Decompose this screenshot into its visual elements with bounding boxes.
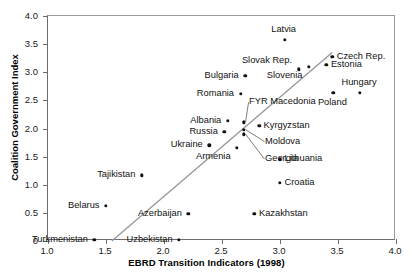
point-label: Kazakhstan	[259, 208, 308, 218]
y-tick	[43, 100, 48, 101]
point-label: Latvia	[271, 24, 296, 34]
point-label: Bulgaria	[205, 70, 239, 80]
y-tick	[43, 16, 48, 17]
y-tick-label: 2.5	[0, 94, 38, 105]
y-tick-label: 3.5	[0, 38, 38, 49]
point-label: Azerbaijan	[138, 208, 182, 218]
y-tick	[43, 185, 48, 186]
y-tick	[43, 157, 48, 158]
point-label: Lithuania	[285, 153, 323, 163]
point-label: Armenia	[196, 151, 231, 161]
x-tick	[106, 239, 107, 244]
point-label: Slovenia	[267, 70, 303, 80]
x-tick-label: 4.0	[388, 245, 401, 256]
x-tick-label: 3.0	[272, 245, 285, 256]
x-tick-label: 3.5	[330, 245, 343, 256]
point-label: Croatia	[285, 177, 315, 187]
data-point	[93, 238, 96, 241]
x-tick-label: 2.0	[156, 245, 169, 256]
point-label: Russia	[189, 126, 217, 136]
point-label: Belarus	[68, 200, 100, 210]
y-tick-label: 1.0	[0, 178, 38, 189]
y-tick-label: 3.0	[0, 66, 38, 77]
x-tick-label: 1.0	[40, 245, 53, 256]
x-axis-title: EBRD Transition Indicators (1998)	[0, 257, 413, 268]
point-label: Ukraine	[171, 139, 203, 149]
y-tick-label: 4.0	[0, 10, 38, 21]
y-tick-label: 1.5	[0, 150, 38, 161]
point-label: Slovak Rep.	[242, 55, 292, 65]
x-tick	[338, 239, 339, 244]
x-tick	[222, 239, 223, 244]
x-tick-label: 2.5	[214, 245, 227, 256]
point-label: Turkmenistan	[32, 234, 88, 244]
y-tick-label: 2.0	[0, 122, 38, 133]
point-label: Tajikistan	[97, 169, 135, 179]
y-tick	[43, 72, 48, 73]
data-point	[177, 238, 180, 241]
y-tick	[43, 44, 48, 45]
point-label: FYR Macedonia	[249, 96, 316, 106]
point-label: Poland	[318, 97, 347, 107]
point-label: Estonia	[331, 59, 362, 69]
point-label: Kyrgyzstan	[264, 120, 310, 130]
y-tick-label: 0.5	[0, 206, 38, 217]
y-tick	[43, 213, 48, 214]
x-tick	[280, 239, 281, 244]
point-label: Albania	[190, 115, 221, 125]
point-label: Hungary	[341, 77, 376, 87]
point-label: Uzbekistan	[127, 234, 173, 244]
point-label: Moldova	[265, 136, 300, 146]
scatter-chart: Coalition Government Index EBRD Transiti…	[0, 0, 413, 272]
y-tick	[43, 129, 48, 130]
point-label: Romania	[197, 88, 234, 98]
x-tick-label: 1.5	[98, 245, 111, 256]
x-tick	[396, 239, 397, 244]
